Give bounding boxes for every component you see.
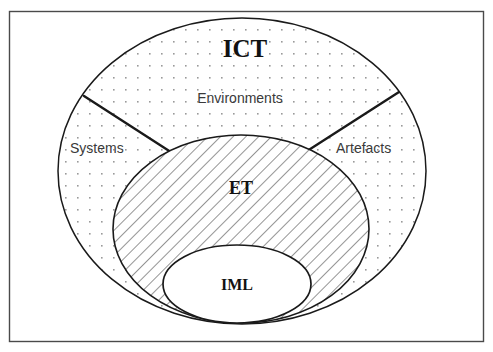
segment-label-systems: Systems (70, 140, 124, 156)
venn-diagram-svg: ICT ET IML Environments Systems Artefact… (0, 0, 493, 352)
region-label-iml: IML (221, 276, 253, 293)
segment-label-artefacts: Artefacts (336, 140, 391, 156)
venn-diagram-container: ICT ET IML Environments Systems Artefact… (0, 0, 493, 352)
segment-label-environments: Environments (197, 90, 283, 106)
region-label-et: ET (229, 178, 253, 198)
region-label-ict: ICT (223, 35, 268, 62)
